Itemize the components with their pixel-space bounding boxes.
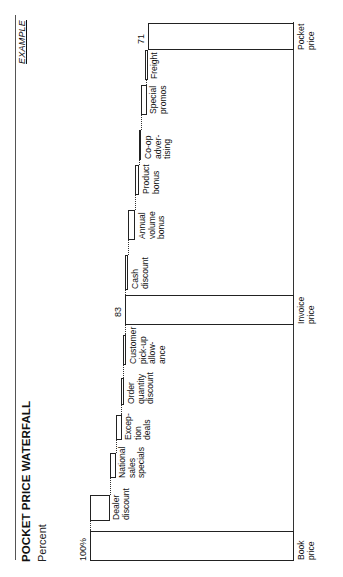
bar-special-promos: [141, 85, 147, 115]
bar-coop-advertising: [139, 130, 141, 160]
label-cash-discount: Cash discount: [131, 257, 150, 289]
value-pocket-price: 71: [136, 34, 146, 44]
connector: [141, 115, 142, 130]
value-invoice-price: 83: [113, 307, 123, 317]
connector: [125, 325, 126, 335]
label-invoice-price: Invoice price: [297, 297, 316, 324]
label-order-quantity-discount: Order quantity discount: [127, 372, 156, 404]
label-customer-pickup-allowance: Customer pick-up allow- ance: [129, 327, 167, 364]
bar-exception-deals: [116, 415, 122, 440]
connector: [146, 80, 147, 85]
chart-subtitle: Percent: [36, 524, 48, 562]
bar-invoice-price: [125, 295, 294, 325]
label-product-bonus: Product bonus: [142, 164, 161, 194]
label-dealer-discount: Dealer discount: [112, 488, 131, 520]
label-annual-volume-bonus: Annual volume bonus: [138, 211, 167, 239]
connector: [116, 440, 117, 453]
label-pocket-price: Pocket price: [297, 24, 316, 50]
baseline-axis: [293, 22, 294, 561]
bar-order-quantity-discount: [121, 378, 124, 405]
label-exception-deals: Excep- tion deals: [124, 413, 153, 440]
bar-pocket-price: [148, 23, 294, 50]
label-special-promos: Special promos: [149, 85, 168, 114]
connector: [90, 521, 91, 531]
value-book-price: 100%: [78, 538, 88, 561]
connector: [139, 160, 140, 165]
label-national-sales-specials: National sales specials: [118, 446, 147, 478]
waterfall-chart: EXAMPLE POCKET PRICE WATERFALL Percent 1…: [0, 0, 343, 577]
bar-freight: [145, 50, 148, 80]
connector: [110, 478, 111, 495]
bar-national-sales-specials: [110, 453, 116, 478]
bar-dealer-discount: [90, 495, 110, 521]
connector: [125, 290, 126, 295]
bar-customer-pickup-allowance: [123, 335, 126, 365]
bar-book-price: [90, 531, 294, 561]
connector: [135, 195, 136, 210]
bar-product-bonus: [135, 165, 139, 195]
chart-title: POCKET PRICE WATERFALL: [20, 401, 32, 562]
label-book-price: Book price: [297, 540, 316, 560]
bar-cash-discount: [125, 255, 128, 290]
connector: [128, 240, 129, 255]
connector: [121, 405, 122, 415]
connector: [123, 365, 124, 378]
bar-annual-volume-bonus: [128, 210, 135, 240]
header-rule: [15, 15, 16, 560]
label-coop-advertising: Co-op adver- tising: [144, 135, 173, 159]
label-freight: Freight: [150, 52, 160, 79]
example-tag: EXAMPLE: [17, 20, 27, 64]
